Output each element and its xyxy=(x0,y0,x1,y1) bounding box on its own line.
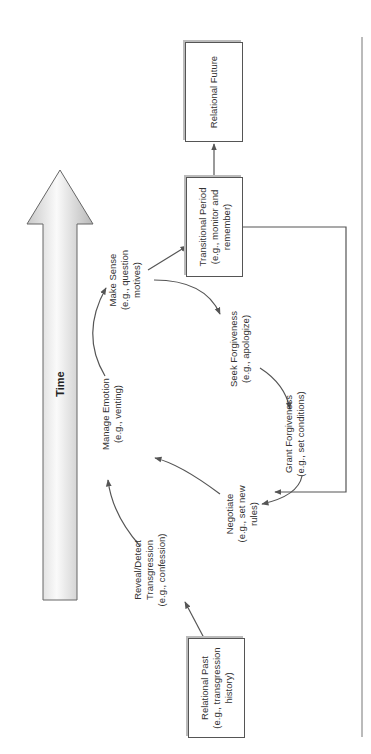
step-reveal-detect: Reveal/Detect Transgression (e.g., confe… xyxy=(132,534,168,607)
relational-past-example-2: history) xyxy=(223,647,235,728)
step-example-1: (e.g., question xyxy=(119,250,131,310)
transitional-period-title: Transitional Period xyxy=(197,188,209,267)
time-axis-label: Time xyxy=(54,371,66,396)
step-example-2: rules) xyxy=(248,485,260,542)
transitional-period-box: Transitional Period (e.g., monitor and r… xyxy=(186,177,243,277)
step-example: (e.g., set conditions) xyxy=(295,391,307,477)
step-example-2: motives) xyxy=(131,250,143,310)
step-title: Make Sense xyxy=(107,250,119,310)
step-seek-forgiveness: Seek Forgiveness (e.g., apologize) xyxy=(228,311,252,387)
step-make-sense: Make Sense (e.g., question motives) xyxy=(107,250,143,310)
step-grant-forgiveness: Grant Forgiveness (e.g., set conditions) xyxy=(283,391,307,477)
step-title: Grant Forgiveness xyxy=(283,391,295,477)
step-example: (e.g., apologize) xyxy=(240,311,252,387)
relational-past-title: Relational Past xyxy=(199,647,211,728)
step-title-2: Transgression xyxy=(144,534,156,607)
step-title: Manage Emotion xyxy=(100,378,112,450)
relational-future-title: Relational Future xyxy=(208,56,220,128)
step-title: Seek Forgiveness xyxy=(228,311,240,387)
step-example: (e.g., venting) xyxy=(112,378,124,450)
transitional-period-example-2: remember) xyxy=(221,188,233,267)
relational-past-example-1: (e.g., transgression xyxy=(211,647,223,728)
relational-future-box: Relational Future xyxy=(185,42,243,142)
step-example-1: (e.g., set new xyxy=(236,485,248,542)
relational-past-box: Relational Past (e.g., transgression his… xyxy=(188,638,245,738)
forgiveness-process-diagram: Time Relational Past (e.g., transgressio… xyxy=(0,0,371,754)
step-manage-emotion: Manage Emotion (e.g., venting) xyxy=(100,378,124,450)
step-title: Negotiate xyxy=(224,485,236,542)
transitional-period-example-1: (e.g., monitor and xyxy=(209,188,221,267)
step-title: Reveal/Detect xyxy=(132,534,144,607)
step-negotiate: Negotiate (e.g., set new rules) xyxy=(224,485,260,542)
step-example: (e.g., confession) xyxy=(156,534,168,607)
